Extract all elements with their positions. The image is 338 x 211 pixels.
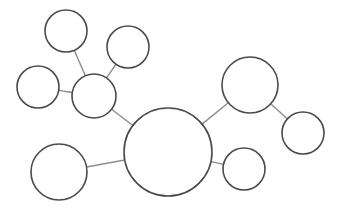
bubble-node-hub-left	[72, 74, 116, 118]
bubble-map-diagram	[0, 0, 338, 211]
circle-shape	[222, 57, 278, 113]
circle-shape	[45, 10, 87, 52]
circle-shape	[124, 108, 212, 196]
bubble-node-left	[17, 66, 59, 108]
circle-shape	[31, 144, 87, 200]
connector-center-to-hub-left	[112, 109, 133, 125]
bubble-node-upper-right	[222, 57, 278, 113]
connector-hub-left-to-left	[59, 90, 73, 92]
circle-shape	[17, 66, 59, 108]
bubble-node-far-right	[282, 112, 324, 154]
circle-shape	[107, 26, 149, 68]
node-layer	[17, 10, 324, 200]
bubble-node-center	[124, 108, 212, 196]
circle-shape	[223, 148, 265, 190]
circle-shape	[72, 74, 116, 118]
connector-center-to-lower-left	[87, 160, 125, 167]
bubble-node-lower-right	[223, 148, 265, 190]
circle-shape	[282, 112, 324, 154]
connector-center-to-lower-right	[211, 162, 224, 165]
bubble-node-lower-left	[31, 144, 87, 200]
connector-hub-left-to-top-mid	[107, 64, 116, 78]
bubble-node-top-left	[45, 10, 87, 52]
bubble-node-top-mid	[107, 26, 149, 68]
connector-center-to-upper-right	[202, 103, 228, 124]
connector-upper-right-to-far-right	[271, 104, 288, 119]
connector-hub-left-to-top-left	[74, 50, 85, 76]
